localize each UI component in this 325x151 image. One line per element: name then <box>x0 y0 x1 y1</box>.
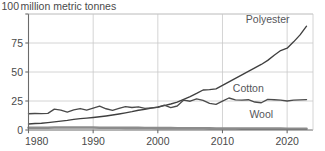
series-label-wool: Wool <box>249 108 273 120</box>
series-line-wool <box>29 128 307 129</box>
chart-container: 1007550250 19801990200020102020 Polyeste… <box>0 0 325 151</box>
y-tick-label-25: 25 <box>11 95 23 107</box>
series-label-cotton: Cotton <box>233 82 264 94</box>
x-tick-label-2010: 2010 <box>211 135 235 147</box>
y-tick-label-100: 100 <box>2 0 20 12</box>
x-tick-label-2020: 2020 <box>275 135 299 147</box>
series-label-polyester: Polyester <box>246 13 290 25</box>
y-tick-label-0: 0 <box>17 124 23 136</box>
x-tick-label-2000: 2000 <box>146 135 170 147</box>
line-chart: 1007550250 19801990200020102020 Polyeste… <box>0 0 325 151</box>
x-tick-label-1980: 1980 <box>25 135 49 147</box>
x-tick-label-1990: 1990 <box>81 135 105 147</box>
chart-title: million metric tonnes <box>21 0 117 12</box>
y-tick-label-50: 50 <box>11 66 23 78</box>
y-tick-label-75: 75 <box>11 37 23 49</box>
